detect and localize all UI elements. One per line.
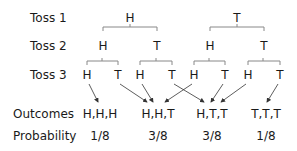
toss3-node: H: [243, 68, 252, 82]
toss3-node: H: [135, 68, 144, 82]
bracket-h1: [103, 24, 157, 31]
toss3-node: T: [221, 68, 228, 82]
probability: 1/8: [90, 129, 109, 143]
toss3-node: T: [114, 68, 121, 82]
row-label-toss1: Toss 1: [30, 11, 67, 25]
probability: 3/8: [148, 129, 167, 143]
toss1-node: T: [233, 11, 240, 25]
probability: 1/8: [256, 129, 275, 143]
toss3-node: T: [276, 68, 283, 82]
toss3-node: H: [189, 68, 198, 82]
row-label-probability: Probability: [13, 129, 76, 143]
outcome: T,T,T: [251, 107, 281, 121]
probability: 3/8: [202, 129, 221, 143]
toss2-node: T: [153, 39, 160, 53]
bracket-t1: [210, 24, 264, 31]
toss2-node: H: [205, 39, 214, 53]
toss1-node: H: [125, 11, 134, 25]
outcome: H,T,T: [196, 107, 227, 121]
outcome: H,H,T: [141, 107, 174, 121]
toss3-node: H: [82, 68, 91, 82]
row-label-toss3: Toss 3: [30, 68, 67, 82]
row-label-toss2: Toss 2: [30, 39, 67, 53]
toss2-node: T: [260, 39, 267, 53]
toss2-node: H: [98, 39, 107, 53]
outcome: H,H,H: [83, 107, 118, 121]
row-label-outcomes: Outcomes: [13, 107, 74, 121]
toss3-node: T: [168, 68, 175, 82]
